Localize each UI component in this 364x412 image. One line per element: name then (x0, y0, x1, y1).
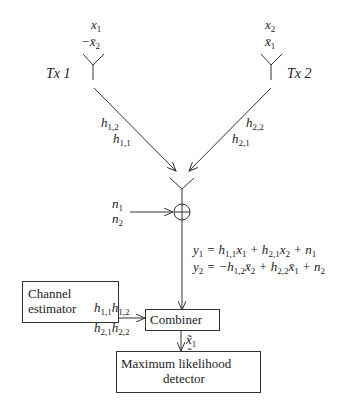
channel-h21: h2,1 (232, 132, 250, 148)
tx2-label: Tx 2 (287, 67, 312, 81)
combiner-box: Combiner (145, 309, 220, 331)
ml-detector-box: Maximum likelihood detector (116, 351, 261, 393)
tx1-symbol-1: x1 (91, 18, 101, 34)
detector-line2: detector (121, 371, 260, 386)
equation-y1: y1 = h1,1x1 + h2,1x2 + n1 (193, 243, 316, 259)
tx2-symbol-2: x̄1 (265, 35, 275, 51)
channel-h12: h1,2 (101, 116, 119, 132)
tx2-antenna-icon (261, 54, 282, 80)
tx2-symbol-1: x2 (265, 18, 275, 34)
estimate-bottom: h2,1h2,2 (94, 321, 130, 337)
tx1-symbol-2: −x̄2 (81, 35, 100, 51)
adder-icon (174, 204, 190, 220)
estimate-top: h1,1h1,2 (94, 301, 130, 317)
tx1-label: Tx 1 (46, 67, 71, 81)
rx-antenna-icon (170, 178, 194, 204)
equation-y2: y2 = −h1,2x̄2 + h2,2x̄1 + n2 (193, 260, 325, 276)
combiner-label: Combiner (150, 312, 219, 327)
detector-line1: Maximum likelihood (121, 356, 260, 371)
channel-h11: h1,1 (113, 132, 131, 148)
noise-n2: n2 (112, 212, 123, 228)
channel-h22: h2,2 (246, 116, 264, 132)
channel-estimator-line1: Channel (28, 286, 118, 301)
tx1-antenna-icon (83, 54, 104, 80)
